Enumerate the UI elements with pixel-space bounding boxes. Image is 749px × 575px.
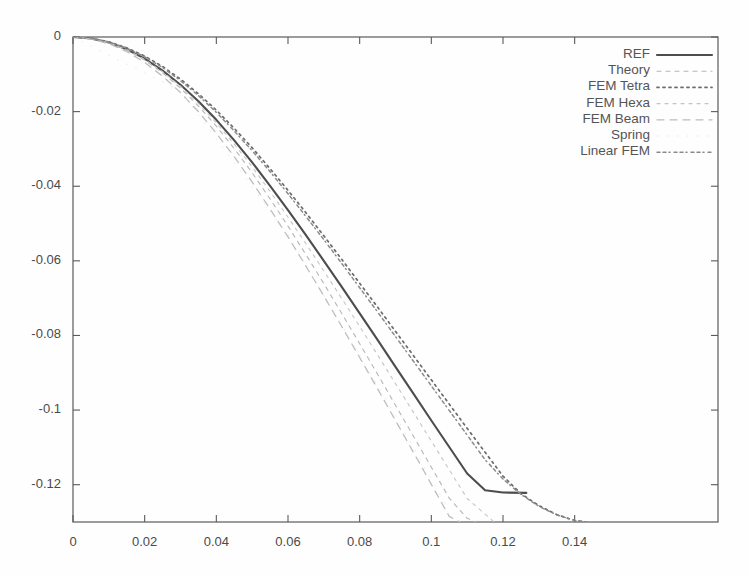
x-tick-label: 0.04 xyxy=(186,534,246,549)
plot-frame xyxy=(73,37,718,522)
y-tick-label: -0.12 xyxy=(0,476,61,491)
series-group xyxy=(73,37,587,522)
legend-label-fem-beam: FEM Beam xyxy=(380,111,650,126)
x-tick-label: 0.08 xyxy=(330,534,390,549)
x-tick-label: 0.1 xyxy=(401,534,461,549)
legend-label-ref: REF xyxy=(380,46,650,61)
y-tick-label: 0 xyxy=(0,28,61,43)
series-line-fem-tetra xyxy=(73,37,586,522)
legend-label-linear-fem: Linear FEM xyxy=(380,143,650,158)
y-tick-label: -0.02 xyxy=(0,103,61,118)
y-tick-label: -0.06 xyxy=(0,252,61,267)
x-tick-label: 0.14 xyxy=(545,534,605,549)
legend-label-theory: Theory xyxy=(380,62,650,77)
series-line-fem-hexa xyxy=(73,37,494,522)
y-tick-label: -0.1 xyxy=(0,401,61,416)
series-line-theory xyxy=(73,37,476,522)
y-tick-label: -0.08 xyxy=(0,326,61,341)
x-tick-label: 0.02 xyxy=(115,534,175,549)
x-tick-label: 0.12 xyxy=(473,534,533,549)
series-line-fem-beam xyxy=(73,37,460,522)
legend-label-spring: Spring xyxy=(380,127,650,142)
legend-label-fem-hexa: FEM Hexa xyxy=(380,95,650,110)
y-tick-label: -0.04 xyxy=(0,177,61,192)
x-tick-label: 0.06 xyxy=(258,534,318,549)
legend-label-fem-tetra: FEM Tetra xyxy=(380,78,650,93)
series-line-linear-fem xyxy=(73,37,587,522)
chart-canvas: 0-0.02-0.04-0.06-0.08-0.1-0.12 00.020.04… xyxy=(0,0,749,575)
x-tick-label: 0 xyxy=(43,534,103,549)
